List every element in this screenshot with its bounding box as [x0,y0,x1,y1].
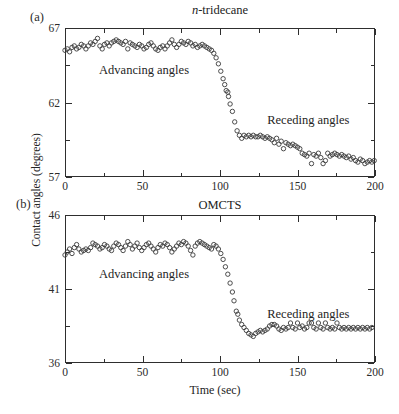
contact-angle-figure: (a) n-tridecane (b) OMCTS Time (sec) Con… [0,0,399,414]
panel-a-title: n-tridecane [70,3,370,18]
data-point [135,241,139,245]
x-tick-label: 200 [353,180,397,193]
data-point [121,248,125,252]
data-points-layer [63,36,377,166]
data-point [165,44,169,48]
data-point [151,247,155,251]
y-tick-label: 36 [34,356,60,370]
x-tick-label: 50 [121,366,165,379]
data-point [126,239,130,243]
data-point [226,272,230,276]
x-tick-label: 200 [353,366,397,379]
data-point [72,245,76,249]
data-point [88,245,92,249]
data-point [93,39,97,43]
data-point [149,244,153,248]
data-point [70,251,74,255]
data-point [172,247,176,251]
data-point [95,36,99,40]
annotation-receding-angles: Receding angles [267,307,349,322]
annotation-advancing-angles: Advancing angles [99,267,189,282]
panel-b-plot-area [65,215,375,363]
y-tick-label: 41 [34,282,60,296]
data-point [233,120,237,124]
annotation-receding-angles: Receding angles [267,113,349,128]
data-point [128,242,132,246]
panel-b-title-rest: OMCTS [198,198,241,212]
data-point [277,142,281,146]
data-point [237,318,241,322]
data-point [223,82,227,86]
data-point [216,247,220,251]
data-point [281,147,285,151]
data-point [240,322,244,326]
data-point [221,77,225,81]
data-point [156,245,160,249]
data-point [230,109,234,113]
data-point [84,47,88,51]
panel-b-letter: (b) [16,197,31,212]
x-tick-label: 100 [198,180,242,193]
data-point [119,245,123,249]
x-tick-label: 50 [121,180,165,193]
data-point [137,245,141,249]
data-point [154,250,158,254]
data-point [272,141,276,145]
data-point [214,56,218,60]
data-point [142,245,146,249]
data-point [274,136,278,140]
y-tick-label: 57 [34,170,60,184]
data-point [177,42,181,46]
data-point [126,47,130,51]
data-point [140,248,144,252]
data-point [240,136,244,140]
data-point [221,257,225,261]
data-point [174,244,178,248]
data-point [319,155,323,159]
data-point [216,62,220,66]
data-point [226,94,230,98]
data-point [316,151,320,155]
data-point [133,244,137,248]
data-point [167,41,171,45]
data-point [232,299,236,303]
data-point [321,161,325,165]
data-point [151,44,155,48]
plot-frame [66,29,375,177]
data-point [123,39,127,43]
x-tick-label: 100 [198,366,242,379]
tick-marks-layer [66,216,376,364]
panel-a-plot-area [65,28,375,177]
annotation-advancing-angles: Advancing angles [99,62,189,77]
data-point [107,44,111,48]
data-point [193,244,197,248]
data-point [170,250,174,254]
data-point [86,44,90,48]
data-point [237,133,241,137]
data-point [98,44,102,48]
data-point [67,247,71,251]
data-point [228,102,232,106]
data-point [309,161,313,165]
y-tick-label: 62 [34,96,60,110]
data-point [230,290,234,294]
x-tick-label: 150 [276,180,320,193]
data-point [307,151,311,155]
data-point [244,328,248,332]
data-point [112,244,116,248]
y-tick-label: 67 [34,21,60,35]
data-point [167,245,171,249]
data-point [123,244,127,248]
panel-b-title: OMCTS [70,198,370,213]
data-point [212,51,216,55]
data-point [188,248,192,252]
data-point [174,45,178,49]
data-point [163,47,167,51]
data-point [100,47,104,51]
data-point [219,69,223,73]
data-point [223,265,227,269]
data-point [74,242,78,246]
data-point [130,247,134,251]
x-tick-label: 150 [276,366,320,379]
y-tick-label: 46 [34,208,60,222]
